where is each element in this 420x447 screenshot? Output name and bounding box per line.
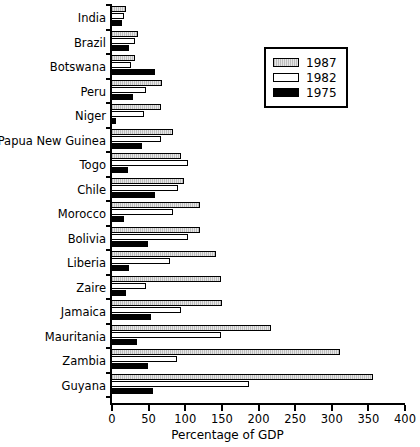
bar-group [111, 227, 404, 248]
bar-1975 [111, 216, 124, 222]
bar-group [111, 178, 404, 199]
debt-percentage-of-gdp-bar-chart: 050100150200250300350400 Percentage of G… [0, 0, 420, 447]
bar-group [111, 153, 404, 174]
category-label-mauritania: Mauritania [0, 331, 106, 343]
bar-1982 [111, 283, 146, 289]
x-axis-tick-label: 150 [202, 412, 242, 426]
bar-1982 [111, 332, 221, 338]
bar-1982 [111, 209, 173, 215]
category-label-botswana: Botswana [0, 61, 106, 73]
bar-1982 [111, 258, 170, 264]
bar-1975 [111, 192, 155, 198]
bar-group [111, 349, 404, 370]
legend-label-1975: 1975 [306, 86, 337, 100]
bar-1982 [111, 62, 131, 68]
bar-1982 [111, 356, 177, 362]
x-axis-tick-label: 400 [385, 412, 420, 426]
bar-1982 [111, 38, 135, 44]
x-axis-tick-label: 0 [92, 412, 132, 426]
bar-1987 [111, 276, 221, 282]
bar-1975 [111, 241, 148, 247]
x-axis-tick [221, 405, 223, 411]
category-label-jamaica: Jamaica [0, 306, 106, 318]
bar-1987 [111, 80, 162, 86]
legend: 1987 1982 1975 [264, 47, 348, 108]
bar-group [111, 31, 404, 52]
x-axis-tick [367, 405, 369, 411]
bar-group [111, 251, 404, 272]
bar-1987 [111, 300, 222, 306]
bar-group [111, 129, 404, 150]
bar-1982 [111, 185, 178, 191]
bar-group [111, 202, 404, 223]
category-label-liberia: Liberia [0, 257, 106, 269]
category-label-peru: Peru [0, 86, 106, 98]
bar-1975 [111, 45, 129, 51]
plot-area [111, 6, 404, 402]
x-axis-title: Percentage of GDP [0, 428, 420, 442]
bar-1982 [111, 381, 249, 387]
bar-1987 [111, 325, 271, 331]
bar-1987 [111, 55, 135, 61]
y-axis-tick [106, 396, 112, 398]
category-label-niger: Niger [0, 110, 106, 122]
x-axis-tick [258, 405, 260, 411]
bar-group [111, 104, 404, 125]
x-axis-tick [148, 405, 150, 411]
bar-1987 [111, 31, 138, 37]
bar-1982 [111, 13, 124, 19]
category-label-papua-new-guinea: Papua New Guinea [0, 135, 106, 147]
bar-1987 [111, 374, 373, 380]
x-axis-tick-label: 100 [165, 412, 205, 426]
bar-group [111, 276, 404, 297]
bar-1987 [111, 251, 216, 257]
bar-1987 [111, 6, 126, 12]
bar-group [111, 374, 404, 395]
bar-group [111, 80, 404, 101]
bar-1982 [111, 307, 181, 313]
category-label-brazil: Brazil [0, 37, 106, 49]
bar-1975 [111, 314, 151, 320]
legend-item-1982: 1982 [273, 70, 337, 85]
x-axis-tick-label: 200 [239, 412, 279, 426]
x-axis-tick-label: 250 [275, 412, 315, 426]
x-axis-tick [404, 405, 406, 411]
x-axis-tick [294, 405, 296, 411]
bar-1987 [111, 178, 184, 184]
bar-1975 [111, 339, 137, 345]
bar-1975 [111, 20, 122, 26]
black-swatch [273, 88, 299, 97]
bar-1987 [111, 202, 200, 208]
bar-1987 [111, 227, 200, 233]
bar-1975 [111, 143, 142, 149]
category-label-morocco: Morocco [0, 208, 106, 220]
bar-1975 [111, 265, 129, 271]
category-label-zaire: Zaire [0, 282, 106, 294]
bar-1975 [111, 118, 116, 124]
bar-1975 [111, 69, 155, 75]
bar-1975 [111, 290, 126, 296]
category-label-togo: Togo [0, 159, 106, 171]
x-axis-tick [184, 405, 186, 411]
bar-group [111, 325, 404, 346]
bar-1975 [111, 94, 133, 100]
legend-label-1987: 1987 [306, 56, 337, 70]
white-swatch [273, 73, 299, 82]
legend-item-1975: 1975 [273, 85, 337, 100]
bar-group [111, 300, 404, 321]
category-label-india: India [0, 12, 106, 24]
bar-group [111, 55, 404, 76]
x-axis-tick-label: 350 [348, 412, 388, 426]
x-axis-tick-label: 50 [129, 412, 169, 426]
category-label-chile: Chile [0, 184, 106, 196]
bar-1975 [111, 363, 148, 369]
bar-1982 [111, 234, 188, 240]
category-label-bolivia: Bolivia [0, 233, 106, 245]
bar-1975 [111, 167, 128, 173]
gray-hatched-swatch [273, 58, 299, 67]
x-axis-tick [331, 405, 333, 411]
bar-1982 [111, 87, 146, 93]
bar-1982 [111, 160, 188, 166]
x-axis-title-text: Percentage of GDP [171, 428, 283, 442]
bar-1982 [111, 111, 144, 117]
